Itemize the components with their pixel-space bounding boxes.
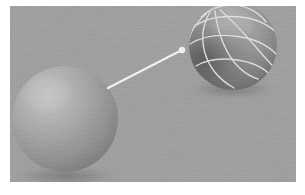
solid-shaded-sphere [12, 66, 118, 172]
arrow-head-icon [179, 47, 185, 53]
scene-graphics [10, 6, 296, 182]
figure-root [0, 0, 305, 195]
render-viewport [10, 6, 296, 182]
transformation-arrow [108, 47, 185, 88]
wireframe-mesh-sphere [188, 6, 277, 91]
arrow-shaft [108, 51, 180, 88]
